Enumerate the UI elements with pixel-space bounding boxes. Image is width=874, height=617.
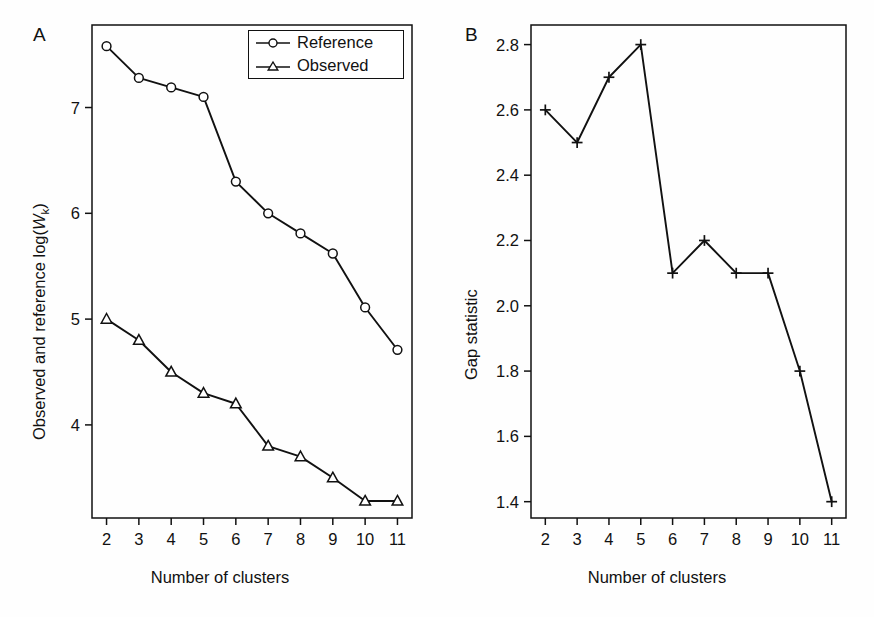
x-tick-label: 7 [264,530,273,549]
x-tick-label: 6 [231,530,240,549]
x-tick-label: 2 [541,530,550,549]
x-tick-label: 10 [356,530,374,549]
y-tick-label: 2.4 [471,166,519,185]
y-tick-label: 2.2 [471,231,519,250]
y-tick-label: 7 [32,98,80,117]
x-tick-label: 3 [134,530,143,549]
y-tick-label: 2.8 [471,35,519,54]
legend-label-reference: Reference [297,33,373,52]
x-tick-label: 5 [199,530,208,549]
legend-label-observed: Observed [297,56,369,75]
y-tick-label: 2.6 [471,100,519,119]
gap-statistic-figure: A Number of clusters Observed and refere… [0,0,874,617]
y-tick-label: 1.6 [471,427,519,446]
triangle-marker-icon [254,58,292,74]
panel-b-x-axis-title: Number of clusters [440,568,874,587]
panel-a: A Number of clusters Observed and refere… [0,0,440,617]
panel-a-plot [0,0,440,617]
y-tick-label: 6 [32,204,80,223]
x-tick-label: 6 [668,530,677,549]
panel-b: B Number of clusters Gap statistic 1.41.… [440,0,874,617]
x-tick-label: 11 [389,530,406,549]
panel-a-x-axis-title: Number of clusters [0,568,440,587]
x-tick-label: 5 [636,530,645,549]
y-tick-label: 5 [32,310,80,329]
panel-a-legend: Reference Observed [248,30,404,79]
y-tick-label: 1.4 [471,492,519,511]
y-tick-label: 4 [32,415,80,434]
x-tick-label: 9 [328,530,337,549]
x-tick-label: 8 [732,530,741,549]
x-tick-label: 4 [604,530,613,549]
x-tick-label: 3 [573,530,582,549]
legend-item-reference: Reference [249,31,403,54]
y-tick-label: 1.8 [471,362,519,381]
x-tick-label: 4 [167,530,176,549]
x-tick-label: 2 [102,530,111,549]
x-tick-label: 7 [700,530,709,549]
x-tick-label: 10 [791,530,809,549]
x-tick-label: 9 [763,530,772,549]
x-tick-label: 11 [823,530,840,549]
x-tick-label: 8 [296,530,305,549]
circle-marker-icon [254,35,292,51]
y-axis-title-prefix: Observed and reference log( [30,230,48,440]
y-tick-label: 2.0 [471,296,519,315]
legend-item-observed: Observed [249,54,403,77]
